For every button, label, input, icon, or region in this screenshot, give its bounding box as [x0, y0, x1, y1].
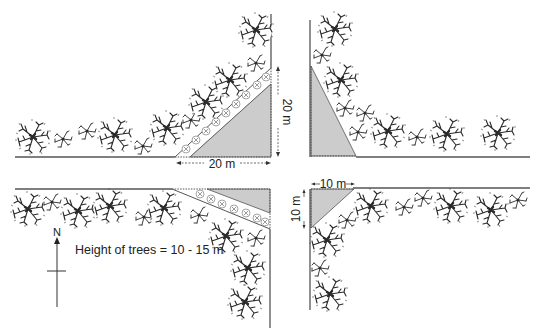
intersection-diagram: 20 m 20 m	[0, 0, 540, 335]
quadrant-south-west: N Height of trees = 10 - 15 m	[10, 188, 270, 328]
quadrant-north-west: 20 m 20 m	[15, 12, 294, 171]
dim-label-se-vertical: 10 m	[289, 196, 303, 223]
dim-label-se-horizontal: 10 m	[320, 177, 347, 191]
tree-row	[309, 188, 527, 312]
quadrant-north-east	[310, 11, 530, 157]
sight-triangle	[207, 189, 270, 213]
dimension-vertical-20m	[276, 66, 280, 157]
diagram-canvas: 20 m 20 m	[0, 0, 540, 335]
tree-height-note: Height of trees = 10 - 15 m	[75, 243, 223, 257]
north-arrow	[47, 237, 66, 307]
quadrant-south-east: 10 m 10 m	[289, 177, 530, 312]
north-label: N	[53, 226, 61, 238]
dim-label-nw-vertical: 20 m	[280, 99, 294, 126]
dim-label-nw-horizontal: 20 m	[209, 157, 236, 171]
